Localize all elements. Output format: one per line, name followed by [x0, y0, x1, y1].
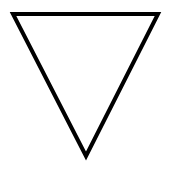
inverted-triangle	[13, 14, 158, 156]
triangle-down-icon	[0, 0, 171, 172]
diagram-canvas	[0, 0, 171, 172]
